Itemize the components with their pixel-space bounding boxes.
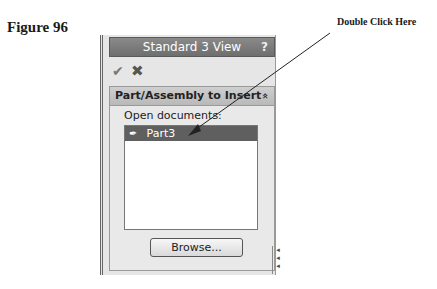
open-documents-label: Open documents: (124, 109, 222, 122)
property-manager-panel: Standard 3 View ? ✔ ✖ Part/Assembly to I… (100, 35, 276, 275)
panel-frame: Standard 3 View ? ✔ ✖ Part/Assembly to I… (105, 35, 276, 275)
section-header[interactable]: Part/Assembly to Insert « (110, 87, 274, 106)
open-documents-list[interactable]: ✒ Part3 (124, 125, 258, 230)
figure-label: Figure 96 (7, 19, 68, 36)
cancel-x-icon[interactable]: ✖ (131, 62, 144, 80)
grip-arrows-icon: ◂◂◂ (274, 246, 282, 270)
list-item-part3[interactable]: ✒ Part3 (125, 126, 257, 141)
panel-title-bar: Standard 3 View ? (109, 37, 275, 57)
part-assembly-section: Part/Assembly to Insert « Open documents… (109, 86, 275, 271)
section-title: Part/Assembly to Insert (115, 89, 261, 102)
panel-title: Standard 3 View (143, 40, 241, 54)
ok-check-icon[interactable]: ✔ (112, 63, 124, 79)
panel-resize-grip[interactable]: ◂◂◂ (272, 246, 282, 274)
part-icon: ✒ (129, 126, 143, 141)
callout-text: Double Click Here (337, 16, 416, 27)
list-item-label: Part3 (147, 127, 176, 140)
help-icon[interactable]: ? (261, 38, 268, 56)
browse-button[interactable]: Browse... (150, 238, 243, 257)
collapse-chevron-icon[interactable]: « (256, 93, 274, 99)
